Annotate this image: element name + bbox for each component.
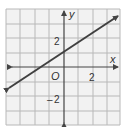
y-tick-label-2: 2 [54, 36, 60, 47]
x-tick-label-2: 2 [89, 72, 95, 83]
y-tick-label-neg2: – [47, 94, 53, 105]
y-tick-label-neg2-digit: 2 [54, 94, 60, 105]
coordinate-graph: y x O 2 2 – 2 [0, 0, 129, 127]
x-axis-label: x [109, 53, 116, 65]
origin-label: O [51, 70, 60, 82]
